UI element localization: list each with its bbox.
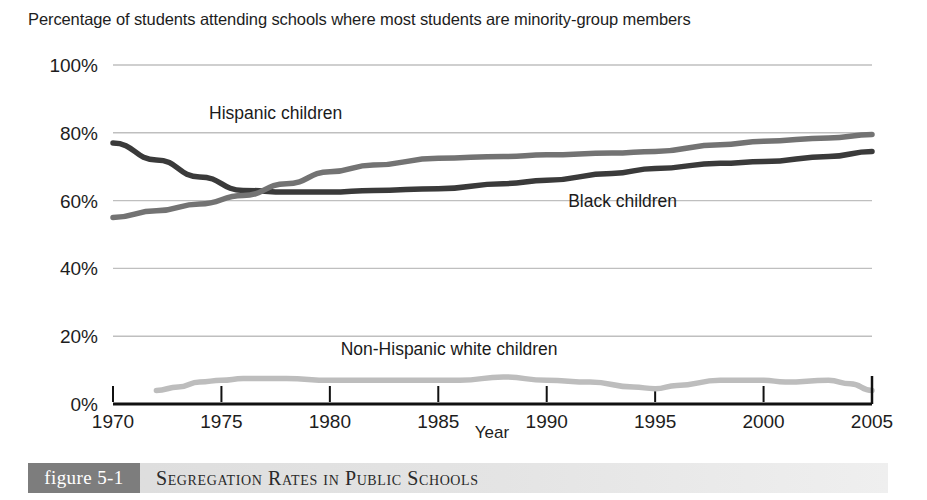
- y-axis-tick-label: 20%: [60, 326, 98, 347]
- series-label-black-children: Black children: [568, 191, 677, 211]
- figure-number-badge: figure 5-1: [28, 463, 140, 493]
- figure-caption-title: Segregation Rates in Public Schools: [140, 463, 888, 493]
- series-label-non-hispanic-white-children: Non-Hispanic white children: [341, 339, 558, 359]
- series-line: [156, 377, 872, 391]
- y-axis-tick-label: 80%: [60, 123, 98, 144]
- chart-headline: Percentage of students attending schools…: [28, 10, 691, 29]
- figure-container: Percentage of students attending schools…: [0, 0, 927, 500]
- line-chart-svg: 0%20%40%60%80%100% 197019751980198519901…: [0, 40, 927, 440]
- x-axis-tick-marks: [113, 386, 872, 402]
- y-axis-tick-labels: 0%20%40%60%80%100%: [49, 55, 98, 415]
- x-axis-tick-label: 1970: [92, 411, 134, 432]
- figure-caption-bar: figure 5-1 Segregation Rates in Public S…: [28, 463, 888, 493]
- y-axis-tick-label: 60%: [60, 191, 98, 212]
- y-axis-tick-label: 100%: [49, 55, 98, 76]
- x-axis-tick-label: 1990: [526, 411, 568, 432]
- series-inline-labels: Hispanic childrenBlack childrenNon-Hispa…: [209, 103, 677, 359]
- chart-plot-area: 0%20%40%60%80%100% 197019751980198519901…: [0, 40, 927, 440]
- x-axis-tick-label: 1980: [309, 411, 351, 432]
- x-axis-tick-label: 1975: [200, 411, 242, 432]
- series-line: [113, 135, 872, 218]
- series-line: [113, 143, 872, 192]
- x-axis-tick-label: 2000: [742, 411, 784, 432]
- x-axis-tick-label: 1985: [417, 411, 459, 432]
- x-axis-tick-label: 2005: [851, 411, 893, 432]
- y-axis-tick-label: 40%: [60, 258, 98, 279]
- x-axis-tick-label: 1995: [634, 411, 676, 432]
- series-label-hispanic-children: Hispanic children: [209, 103, 342, 123]
- x-axis-title: Year: [475, 423, 510, 440]
